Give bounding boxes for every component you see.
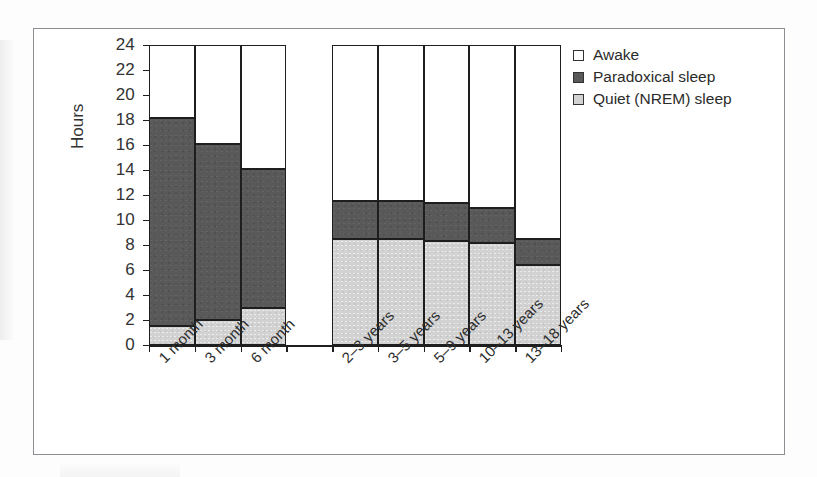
x-axis-tick: [378, 345, 379, 352]
stacked-bar[interactable]: [424, 45, 470, 345]
y-axis-tick-label: 12: [93, 185, 135, 205]
x-axis-tick: [149, 345, 150, 352]
legend-swatch-paradoxical: [573, 72, 584, 83]
y-axis-tick-label: 0: [93, 335, 135, 355]
bar-segment-paradoxical-sleep[interactable]: [378, 201, 424, 239]
bar-segment-paradoxical-sleep[interactable]: [241, 169, 287, 308]
x-axis-tick: [515, 345, 516, 352]
y-axis-tick-label: 10: [93, 210, 135, 230]
y-axis-tick-label: 8: [93, 235, 135, 255]
legend-item[interactable]: Quiet (NREM) sleep: [573, 89, 773, 109]
bar-segment-paradoxical-sleep[interactable]: [424, 203, 470, 242]
bar-segment-paradoxical-sleep[interactable]: [515, 239, 561, 265]
x-axis-tick: [424, 345, 425, 352]
bar-segment-awake[interactable]: [149, 45, 195, 118]
legend-item-label: Quiet (NREM) sleep: [593, 90, 732, 108]
y-axis-tick-label: 6: [93, 260, 135, 280]
figure-canvas: 024681012141618202224 Hours 1 month3 mon…: [0, 0, 817, 477]
stacked-bar[interactable]: [332, 45, 378, 345]
legend-item[interactable]: Awake: [573, 45, 773, 65]
x-axis-tick: [561, 345, 562, 352]
bar-segment-awake[interactable]: [469, 45, 515, 208]
bar-segment-awake[interactable]: [241, 45, 287, 169]
y-axis-tick-label: 16: [93, 135, 135, 155]
y-axis-tick-label: 14: [93, 160, 135, 180]
y-axis-tick-labels: 024681012141618202224: [89, 45, 135, 346]
bar-segment-awake[interactable]: [515, 45, 561, 239]
stacked-bar[interactable]: [149, 45, 195, 345]
x-axis-tick: [469, 345, 470, 352]
page-edge-artifact-bottom: [60, 463, 180, 477]
legend-item-label: Awake: [593, 46, 639, 64]
y-axis-tick-label: 4: [93, 285, 135, 305]
x-axis-tick: [286, 345, 287, 352]
bar-segment-paradoxical-sleep[interactable]: [149, 118, 195, 327]
x-axis-tick: [195, 345, 196, 352]
y-axis-tick-label: 2: [93, 310, 135, 330]
stacked-bar[interactable]: [195, 45, 241, 345]
page-edge-artifact-left: [0, 40, 14, 340]
chart-frame: 024681012141618202224 Hours 1 month3 mon…: [33, 28, 785, 455]
stacked-bar[interactable]: [241, 45, 287, 345]
y-axis-tick-label: 20: [93, 85, 135, 105]
y-axis-title: Hours: [68, 104, 88, 149]
bar-segment-paradoxical-sleep[interactable]: [332, 201, 378, 239]
y-axis-tick-label: 22: [93, 60, 135, 80]
bar-segment-awake[interactable]: [378, 45, 424, 201]
legend-item[interactable]: Paradoxical sleep: [573, 67, 773, 87]
bar-segment-paradoxical-sleep[interactable]: [469, 208, 515, 243]
bar-segment-awake[interactable]: [195, 45, 241, 144]
legend-swatch-awake: [573, 50, 584, 61]
legend-swatch-quiet: [573, 94, 584, 105]
y-axis-tick-label: 18: [93, 110, 135, 130]
bar-segment-awake[interactable]: [332, 45, 378, 201]
bar-segment-paradoxical-sleep[interactable]: [195, 144, 241, 320]
stacked-bar[interactable]: [378, 45, 424, 345]
y-axis-tick-label: 24: [93, 35, 135, 55]
x-axis-tick: [332, 345, 333, 352]
x-axis-tick: [241, 345, 242, 352]
chart-legend: AwakeParadoxical sleepQuiet (NREM) sleep: [573, 45, 773, 111]
bar-segment-awake[interactable]: [424, 45, 470, 203]
legend-item-label: Paradoxical sleep: [593, 68, 715, 86]
plot-area: [149, 45, 561, 345]
stacked-bar[interactable]: [469, 45, 515, 345]
